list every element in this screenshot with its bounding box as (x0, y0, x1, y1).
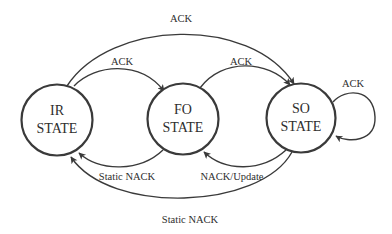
arrow-fo-to-ir (79, 150, 163, 167)
state-so-circle (267, 84, 336, 153)
state-so-name: SO (292, 101, 310, 116)
state-so: SO STATE (267, 84, 336, 153)
label-fo-to-ir: Static NACK (99, 171, 156, 182)
arrow-ir-to-so (67, 34, 294, 86)
label-fo-to-so: ACK (230, 56, 253, 67)
state-fo-circle (148, 84, 219, 155)
state-fo-label: STATE (163, 120, 204, 135)
arrow-ir-to-fo (74, 69, 164, 91)
edge-so-to-fo-nack-update: NACK/Update (201, 150, 287, 182)
arrow-fo-to-so (200, 66, 290, 88)
edge-ir-to-fo-ack: ACK (74, 56, 164, 91)
edge-so-self-ack: ACK (333, 78, 375, 140)
arrow-so-self (333, 93, 375, 140)
label-so-to-fo: NACK/Update (201, 171, 264, 182)
label-ir-to-fo: ACK (111, 56, 134, 67)
label-so-to-ir: Static NACK (162, 214, 219, 225)
state-fo-name: FO (174, 102, 192, 117)
edge-fo-to-so-ack: ACK (200, 56, 290, 88)
state-ir-label: STATE (37, 121, 78, 136)
arrow-so-to-fo (204, 150, 286, 167)
state-ir-circle (22, 85, 93, 156)
state-fo: FO STATE (148, 84, 219, 155)
state-so-label: STATE (281, 119, 322, 134)
label-so-self: ACK (342, 78, 365, 89)
label-ir-to-so: ACK (170, 13, 193, 24)
state-ir-name: IR (50, 103, 65, 118)
state-ir: IR STATE (22, 85, 93, 156)
state-diagram: ACK ACK ACK ACK Static NACK NACK/Update … (0, 0, 392, 234)
edge-ir-to-so-ack: ACK (67, 13, 294, 86)
edge-so-to-ir-static-nack: Static NACK (71, 152, 292, 225)
